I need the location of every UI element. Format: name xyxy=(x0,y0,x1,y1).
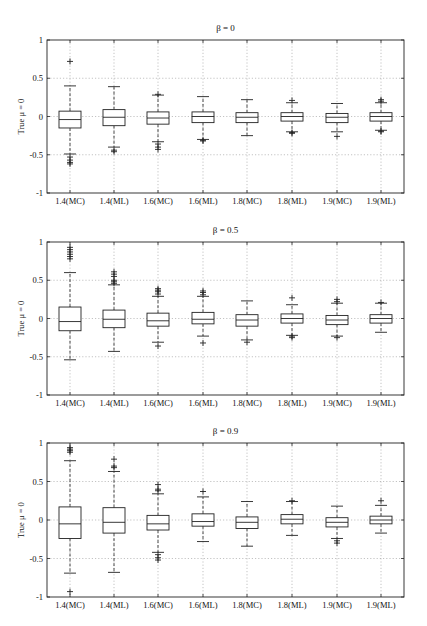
x-tick-label: 1.8(ML) xyxy=(277,196,306,206)
outlier-plus-icon xyxy=(67,589,73,595)
box-1.8(MC) xyxy=(236,301,258,345)
x-tick-label: 1.4(MC) xyxy=(55,600,85,610)
x-tick-label: 1.9(ML) xyxy=(366,398,395,408)
y-tick-label: 0.5 xyxy=(32,275,43,285)
y-axis-label: True μ = 0 xyxy=(16,301,26,337)
outlier-plus-icon xyxy=(111,149,117,155)
x-tick-label: 1.4(ML) xyxy=(99,196,128,206)
outlier-plus-icon xyxy=(200,489,206,495)
chart-panel-2: 10.50-0.5-11.4(MC)1.4(ML)1.6(MC)1.6(ML)1… xyxy=(16,426,404,610)
box-1.9(ML) xyxy=(370,97,392,135)
outlier-plus-icon xyxy=(67,161,73,167)
y-axis-label: True μ = 0 xyxy=(16,99,26,135)
outlier-plus-icon xyxy=(378,129,384,135)
outlier-plus-icon xyxy=(111,456,117,462)
chart-panel-1: 10.50-0.5-11.4(MC)1.4(ML)1.6(MC)1.6(ML)1… xyxy=(16,225,404,408)
chart-panel-0: 10.50-0.5-11.4(MC)1.4(ML)1.6(MC)1.6(ML)1… xyxy=(16,23,404,206)
outlier-plus-icon xyxy=(67,445,73,451)
outlier-plus-icon xyxy=(378,498,384,504)
plot-frame xyxy=(47,40,404,193)
outlier-plus-icon xyxy=(155,343,161,349)
outlier-plus-icon xyxy=(334,335,340,341)
iqr-box xyxy=(192,312,214,323)
box-1.9(MC) xyxy=(326,103,348,139)
plot-frame xyxy=(47,443,404,597)
x-tick-label: 1.9(MC) xyxy=(322,398,352,408)
x-tick-label: 1.6(MC) xyxy=(143,600,173,610)
iqr-box xyxy=(192,514,214,526)
boxplot-figure: 10.50-0.5-11.4(MC)1.4(ML)1.6(MC)1.6(ML)1… xyxy=(0,0,427,626)
x-tick-label: 1.4(ML) xyxy=(99,600,128,610)
y-tick-label: -1 xyxy=(36,390,43,400)
iqr-box xyxy=(59,307,81,331)
outlier-plus-icon xyxy=(289,130,295,136)
x-tick-label: 1.4(ML) xyxy=(99,398,128,408)
iqr-box xyxy=(192,112,214,123)
x-tick-label: 1.6(MC) xyxy=(143,398,173,408)
x-tick-label: 1.4(MC) xyxy=(55,196,85,206)
y-tick-label: -1 xyxy=(36,188,43,198)
y-tick-label: 1 xyxy=(39,35,43,45)
iqr-box xyxy=(326,113,348,122)
x-tick-label: 1.6(ML) xyxy=(188,196,217,206)
box-1.4(MC) xyxy=(59,244,81,359)
box-1.9(MC) xyxy=(326,296,348,340)
iqr-box xyxy=(147,515,169,530)
box-1.9(ML) xyxy=(370,299,392,332)
box-1.8(MC) xyxy=(236,100,258,136)
panel-title: β = 0 xyxy=(216,23,235,33)
box-1.6(MC) xyxy=(147,286,169,349)
y-tick-label: -0.5 xyxy=(30,554,43,564)
y-tick-label: 0.5 xyxy=(32,73,43,83)
x-tick-label: 1.4(MC) xyxy=(55,398,85,408)
x-tick-label: 1.8(ML) xyxy=(277,600,306,610)
box-1.6(MC) xyxy=(147,482,169,563)
box-1.8(ML) xyxy=(281,97,303,136)
box-1.6(MC) xyxy=(147,91,169,152)
x-tick-label: 1.9(MC) xyxy=(322,600,352,610)
outlier-plus-icon xyxy=(155,286,161,292)
x-tick-label: 1.8(MC) xyxy=(232,398,262,408)
iqr-box xyxy=(147,313,169,326)
y-tick-label: -0.5 xyxy=(30,150,43,160)
outlier-plus-icon xyxy=(111,463,117,469)
box-1.9(ML) xyxy=(370,498,392,533)
x-tick-label: 1.8(ML) xyxy=(277,398,306,408)
x-tick-label: 1.6(ML) xyxy=(188,398,217,408)
outlier-plus-icon xyxy=(334,133,340,139)
outlier-plus-icon xyxy=(200,288,206,294)
y-tick-label: 0 xyxy=(39,314,43,324)
y-tick-label: 0 xyxy=(39,112,43,122)
outlier-plus-icon xyxy=(200,138,206,144)
box-1.9(MC) xyxy=(326,506,348,546)
box-1.8(MC) xyxy=(236,502,258,547)
outlier-plus-icon xyxy=(378,97,384,103)
outlier-plus-icon xyxy=(155,482,161,488)
y-tick-label: 1 xyxy=(39,438,43,448)
plot-frame xyxy=(47,242,404,395)
box-1.6(ML) xyxy=(192,489,214,542)
x-tick-label: 1.9(ML) xyxy=(366,600,395,610)
x-tick-label: 1.6(MC) xyxy=(143,196,173,206)
iqr-box xyxy=(103,508,125,533)
iqr-box xyxy=(59,507,81,539)
outlier-plus-icon xyxy=(67,58,73,64)
outlier-plus-icon xyxy=(289,498,295,504)
x-tick-label: 1.8(MC) xyxy=(232,196,262,206)
x-tick-label: 1.6(ML) xyxy=(188,600,217,610)
panel-title: β = 0.5 xyxy=(213,225,239,235)
outlier-plus-icon xyxy=(155,91,161,97)
y-tick-label: -0.5 xyxy=(30,352,43,362)
box-1.4(ML) xyxy=(103,269,125,352)
box-1.4(ML) xyxy=(103,456,125,572)
box-1.6(ML) xyxy=(192,288,214,346)
outlier-plus-icon xyxy=(200,340,206,346)
outlier-plus-icon xyxy=(378,299,384,305)
panel-title: β = 0.9 xyxy=(213,426,239,436)
y-tick-label: 0 xyxy=(39,515,43,525)
y-tick-label: 0.5 xyxy=(32,477,43,487)
x-tick-label: 1.9(MC) xyxy=(322,196,352,206)
x-tick-label: 1.8(MC) xyxy=(232,600,262,610)
box-1.4(ML) xyxy=(103,87,125,155)
box-1.4(MC) xyxy=(59,58,81,167)
